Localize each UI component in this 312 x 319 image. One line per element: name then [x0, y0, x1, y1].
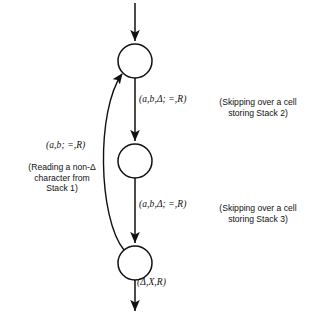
feedback-arrow-label: (a,b; =,R): [46, 140, 85, 151]
state-bottom: [118, 246, 152, 280]
annotation-stack-3: (Skipping over a cell storing Stack 3): [206, 203, 310, 224]
top-to-middle-arrow-label: (a,b,Δ; =,R): [139, 94, 186, 105]
middle-to-bottom-arrow-label: (a,b,Δ; =,R): [139, 199, 186, 210]
exit-arrow-label: (Δ,X,R): [137, 277, 166, 288]
annotation-stack-2: (Skipping over a cell storing Stack 2): [206, 97, 310, 118]
state-top: [118, 44, 152, 78]
annotation-stack-1: (Reading a non-Δ character from Stack 1): [10, 162, 114, 194]
state-transition-diagram-figure: (a,b,Δ; =,R) (a,b,Δ; =,R) (Δ,X,R) (a,b; …: [0, 0, 312, 319]
state-middle: [118, 144, 152, 178]
diagram-canvas: [0, 0, 312, 319]
